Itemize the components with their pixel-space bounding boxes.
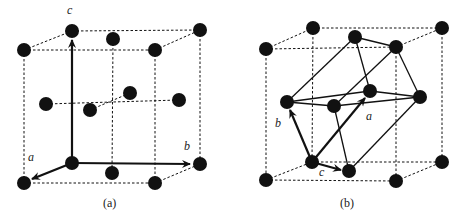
axis-label-c-b: c [319,166,324,178]
lattice-vectors-b [290,98,365,170]
caption-b: (b) [340,197,354,209]
axis-label-b-b: b [275,117,281,129]
diagram-canvas [0,0,467,221]
lattice-vectors-a [32,40,190,179]
axis-label-a-a: a [28,151,34,163]
axis-label-c-a: c [67,4,72,16]
axis-label-a-b: a [366,110,372,122]
axis-label-b-a: b [184,140,190,152]
caption-a: (a) [103,197,116,209]
